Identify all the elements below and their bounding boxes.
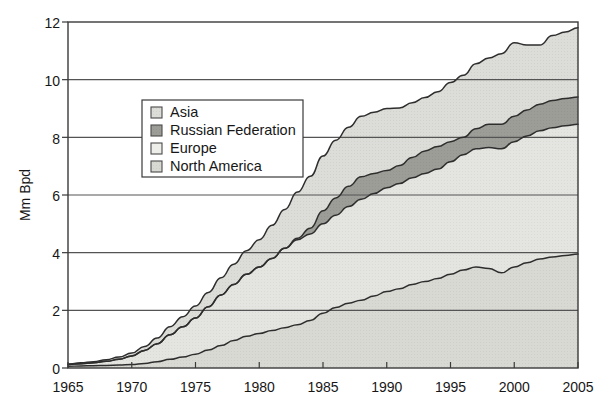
x-tick-label-1975: 1975 — [180, 379, 211, 395]
y-tick-label-8: 8 — [52, 131, 60, 147]
legend-label-europe: Europe — [170, 140, 217, 156]
legend-label-asia: Asia — [170, 104, 199, 120]
x-tick-label-1965: 1965 — [52, 379, 83, 395]
y-tick-label-2: 2 — [52, 303, 60, 319]
legend-swatch-europe — [151, 143, 162, 154]
legend-label-north-america: North America — [170, 158, 263, 174]
y-axis-title: Mm Bpd — [17, 169, 33, 221]
y-tick-label-4: 4 — [52, 246, 60, 262]
x-tick-label-2005: 2005 — [562, 379, 593, 395]
x-tick-label-1995: 1995 — [435, 379, 466, 395]
stacked-area-chart: 0 2 4 6 8 10 12 1965 1970 1975 1980 1985… — [0, 0, 603, 414]
y-tick-label-10: 10 — [44, 73, 60, 89]
y-tick-label-12: 12 — [44, 15, 60, 31]
y-tick-label-0: 0 — [52, 361, 60, 377]
chart-container: 0 2 4 6 8 10 12 1965 1970 1975 1980 1985… — [0, 0, 603, 414]
x-tick-label-1985: 1985 — [307, 379, 338, 395]
chart-legend: Asia Russian Federation Europe North Ame… — [142, 100, 303, 177]
x-tick-label-1970: 1970 — [116, 379, 147, 395]
x-tick-label-1980: 1980 — [244, 379, 275, 395]
legend-swatch-asia — [151, 107, 162, 118]
y-tick-label-6: 6 — [52, 188, 60, 204]
legend-swatch-russian-federation — [151, 125, 162, 136]
x-tick-label-1990: 1990 — [371, 379, 402, 395]
legend-label-russian-federation: Russian Federation — [170, 122, 296, 138]
legend-swatch-north-america — [151, 161, 162, 172]
x-tick-label-2000: 2000 — [499, 379, 530, 395]
